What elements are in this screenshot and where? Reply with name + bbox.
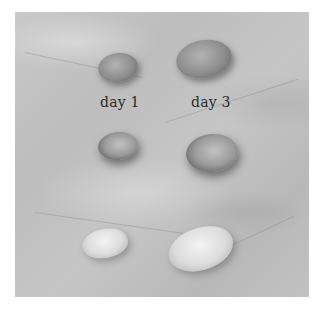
- bean-day3-row3: [163, 220, 238, 279]
- label-day-3: day 3: [191, 94, 231, 110]
- marble-vein: [165, 79, 298, 123]
- bean-day1-row2: [97, 130, 140, 162]
- bean-day3-row1: [173, 35, 235, 82]
- label-day-1: day 1: [100, 94, 140, 110]
- bean-day1-row3: [79, 224, 131, 263]
- bean-day3-row2: [184, 131, 240, 174]
- bean-day1-row1: [96, 50, 140, 84]
- marble-photo: day 1 day 3: [15, 12, 309, 297]
